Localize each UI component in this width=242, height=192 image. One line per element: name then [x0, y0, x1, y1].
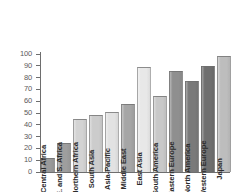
- y-tick-label-80: 80: [10, 74, 32, 82]
- bar-category-label: North America: [184, 144, 192, 192]
- bar-category-label: South America: [152, 143, 160, 192]
- bar-category-label: East Asia: [136, 152, 144, 185]
- bar[interactable]: North America: [185, 81, 198, 172]
- bar[interactable]: Middle East: [121, 104, 134, 172]
- y-tick-label-30: 30: [10, 133, 32, 141]
- y-tick-label-50: 50: [10, 109, 32, 117]
- y-tick-label-40: 40: [10, 121, 32, 129]
- bar[interactable]: Central Africa: [41, 158, 54, 172]
- y-tick-label-90: 90: [10, 62, 32, 70]
- plot-area: Central AfricaE. and S. AfricaNorthern A…: [40, 44, 232, 172]
- bar-category-label: Central Africa: [40, 145, 48, 192]
- bar[interactable]: East Asia: [137, 67, 150, 172]
- bar[interactable]: Japan: [217, 56, 230, 172]
- y-tick-label-70: 70: [10, 85, 32, 93]
- bar[interactable]: South America: [153, 96, 166, 172]
- bar[interactable]: Western Europe: [201, 66, 214, 172]
- x-axis-line: [40, 172, 230, 173]
- bar-category-label: South Asia: [88, 150, 96, 188]
- bar-chart-figure: 0102030405060708090100 Central AfricaE. …: [0, 0, 242, 192]
- y-tick-label-10: 10: [10, 156, 32, 164]
- bar-category-label: Eastern Europe: [168, 142, 176, 192]
- y-tick-label-20: 20: [10, 144, 32, 152]
- bar[interactable]: E. and S. Africa: [57, 143, 70, 173]
- y-tick-label-60: 60: [10, 97, 32, 105]
- bar[interactable]: Asia-Pacific: [105, 112, 118, 172]
- bar-category-label: Middle East: [120, 148, 128, 189]
- bar-category-label: Japan: [216, 158, 224, 179]
- bar-category-label: E. and S. Africa: [56, 142, 64, 192]
- bar[interactable]: South Asia: [89, 115, 102, 172]
- bar[interactable]: Eastern Europe: [169, 71, 182, 172]
- bar-category-label: Northern Africa: [72, 142, 80, 192]
- bar-category-label: Asia-Pacific: [104, 148, 112, 190]
- y-tick-label-100: 100: [10, 50, 32, 58]
- y-tick-label-0: 0: [10, 168, 32, 176]
- bar[interactable]: Northern Africa: [73, 119, 86, 172]
- bar-category-label: Western Europe: [200, 141, 208, 192]
